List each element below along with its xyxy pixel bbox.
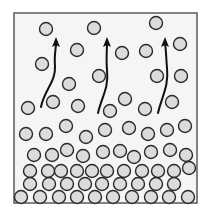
- molecule-circle: [114, 145, 127, 158]
- molecule-circle: [34, 191, 47, 204]
- molecule-circle: [119, 93, 132, 106]
- molecule-circle: [93, 70, 106, 83]
- molecule-circle: [118, 165, 131, 178]
- molecule-circle: [175, 70, 188, 83]
- molecule-circle: [151, 70, 164, 83]
- molecule-circle: [55, 165, 68, 178]
- molecule-circle: [174, 38, 187, 51]
- molecule-circle: [104, 105, 117, 118]
- molecule-circle: [71, 165, 84, 178]
- molecule-circle: [15, 191, 28, 204]
- molecule-circle: [182, 191, 195, 204]
- molecule-circle: [101, 165, 114, 178]
- molecule-circle: [53, 191, 66, 204]
- molecule-circle: [40, 23, 53, 36]
- molecule-circle: [107, 191, 120, 204]
- molecule-circle: [183, 162, 196, 175]
- molecule-circle: [22, 102, 35, 115]
- molecule-circle: [99, 124, 112, 137]
- evaporation-diagram: [0, 0, 207, 218]
- molecule-circle: [36, 58, 49, 71]
- molecule-circle: [43, 178, 56, 191]
- molecule-circle: [123, 122, 136, 135]
- molecule-circle: [163, 191, 176, 204]
- molecule-circle: [145, 191, 158, 204]
- molecule-circle: [86, 165, 99, 178]
- molecule-circle: [28, 149, 41, 162]
- molecule-circle: [152, 165, 165, 178]
- molecule-circle: [96, 178, 109, 191]
- molecule-circle: [161, 124, 174, 137]
- molecule-circle: [24, 178, 37, 191]
- molecule-circle: [24, 165, 37, 178]
- molecule-circle: [139, 103, 152, 116]
- molecule-circle: [60, 120, 73, 133]
- molecule-circle: [126, 191, 139, 204]
- molecule-circle: [71, 44, 84, 57]
- molecule-circle: [46, 149, 59, 162]
- molecule-circle: [150, 178, 163, 191]
- molecule-circle: [140, 45, 153, 58]
- molecule-circle: [72, 100, 85, 113]
- molecule-circle: [179, 120, 192, 133]
- molecule-circle: [77, 150, 90, 163]
- molecule-circle: [42, 165, 55, 178]
- molecule-circle: [166, 96, 179, 109]
- molecule-circle: [132, 178, 145, 191]
- molecule-circle: [164, 144, 177, 157]
- molecule-circle: [168, 178, 181, 191]
- molecule-circle: [80, 131, 93, 144]
- molecule-circle: [180, 149, 193, 162]
- molecule-circle: [114, 178, 127, 191]
- molecule-circle: [47, 96, 60, 109]
- molecule-circle: [97, 146, 110, 159]
- molecule-circle: [145, 146, 158, 159]
- molecule-circle: [79, 178, 92, 191]
- molecule-circle: [61, 144, 74, 157]
- molecule-circle: [128, 151, 141, 164]
- molecule-circle: [89, 191, 102, 204]
- molecule-circle: [88, 22, 101, 35]
- molecule-circle: [20, 128, 33, 141]
- molecule-circle: [71, 191, 84, 204]
- molecule-circle: [40, 128, 53, 141]
- molecule-circle: [168, 165, 181, 178]
- molecule-circle: [116, 47, 129, 60]
- molecule-circle: [61, 178, 74, 191]
- molecule-circle: [150, 17, 163, 30]
- molecule-circle: [63, 78, 76, 91]
- molecule-circle: [136, 165, 149, 178]
- molecule-circle: [142, 128, 155, 141]
